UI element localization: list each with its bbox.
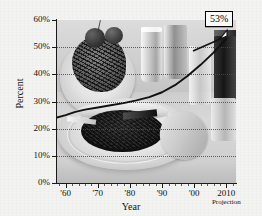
y-axis-tick-labels: 0%10%20%30%40%50%60% (0, 0, 50, 216)
y-tick-label-10: 10% (4, 151, 50, 160)
x-minor-tick-1988 (156, 183, 157, 186)
x-minor-tick-1964 (79, 183, 80, 186)
x-minor-tick-1958 (59, 183, 60, 186)
y-axis-line (56, 19, 57, 184)
chart-page: 0%10%20%30%40%50%60% '60'70'80'90'002010… (0, 0, 262, 216)
x-minor-tick-1962 (72, 183, 73, 186)
x-minor-tick-2008 (220, 183, 221, 186)
x-minor-tick-1994 (175, 183, 176, 186)
x-minor-tick-1968 (91, 183, 92, 186)
x-minor-tick-1966 (85, 183, 86, 186)
x-minor-tick-2006 (214, 183, 215, 186)
y-tick-label-60: 60% (4, 15, 50, 24)
y-tick-60 (52, 20, 56, 21)
y-tick-50 (52, 47, 56, 48)
value-callout-53-percent: 53% (205, 11, 233, 27)
x-axis-line (56, 183, 237, 184)
x-tick-label-2010: 2010 (217, 188, 235, 198)
x-minor-tick-1972 (104, 183, 105, 186)
x-minor-tick-1976 (117, 183, 118, 186)
y-tick-label-0: 0% (4, 178, 50, 187)
x-minor-tick-1984 (143, 183, 144, 186)
y-tick-label-20: 20% (4, 124, 50, 133)
x-minor-tick-1992 (169, 183, 170, 186)
x-tick-label-2000: '00 (189, 188, 200, 198)
x-minor-tick-1982 (136, 183, 137, 186)
y-tick-20 (52, 129, 56, 130)
y-tick-0 (52, 183, 56, 184)
x-tick-label-1960: '60 (60, 188, 71, 198)
y-tick-label-50: 50% (4, 42, 50, 51)
y-tick-label-30: 30% (4, 97, 50, 106)
x-minor-tick-1998 (188, 183, 189, 186)
x-minor-tick-2002 (201, 183, 202, 186)
x-tick-label-1970: '70 (92, 188, 103, 198)
y-tick-10 (52, 156, 56, 157)
y-tick-label-40: 40% (4, 69, 50, 78)
projection-note: Projection (212, 198, 241, 206)
x-minor-tick-1986 (149, 183, 150, 186)
x-tick-label-1980: '80 (125, 188, 136, 198)
y-tick-30 (52, 102, 56, 103)
x-minor-tick-2012 (233, 183, 234, 186)
y-axis-title: Percent (14, 59, 25, 129)
x-minor-tick-1978 (124, 183, 125, 186)
x-minor-tick-1996 (181, 183, 182, 186)
y-tick-40 (52, 74, 56, 75)
x-minor-tick-2004 (207, 183, 208, 186)
x-tick-label-1990: '90 (157, 188, 168, 198)
x-minor-tick-1974 (111, 183, 112, 186)
